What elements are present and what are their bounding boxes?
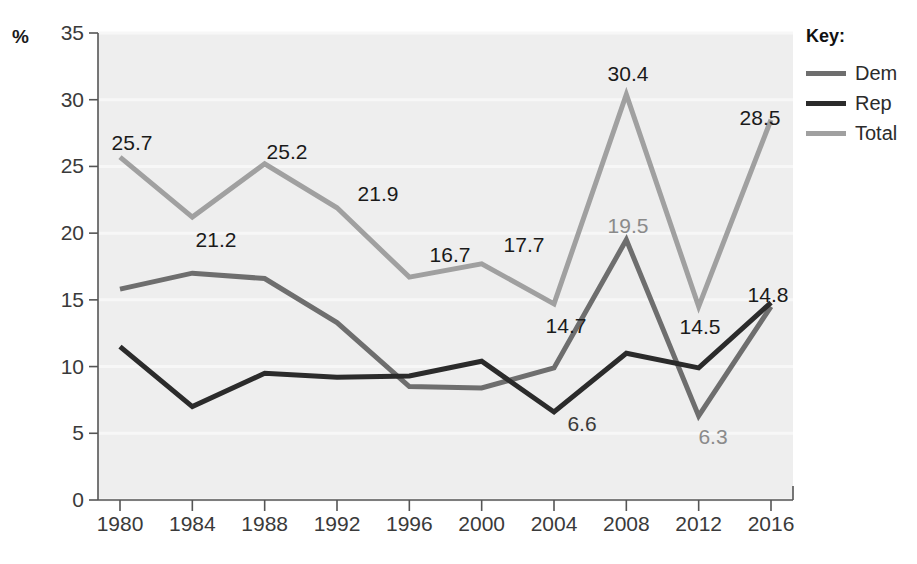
x-axis-tick-label: 1996 bbox=[386, 512, 433, 536]
legend-item-dem: Dem bbox=[806, 58, 914, 88]
legend-item-rep: Rep bbox=[806, 88, 914, 118]
data-point-label: 21.2 bbox=[196, 228, 237, 252]
data-point-label: 28.5 bbox=[740, 106, 781, 130]
plot-area bbox=[0, 0, 917, 564]
x-axis-tick-label: 1992 bbox=[314, 512, 361, 536]
legend-swatch-rep bbox=[806, 101, 846, 106]
legend-swatch-dem bbox=[806, 71, 846, 76]
y-axis-tick-label: 20 bbox=[40, 221, 84, 245]
x-axis-tick-label: 1980 bbox=[97, 512, 144, 536]
data-point-label: 25.7 bbox=[112, 131, 153, 155]
y-axis-unit-label: % bbox=[12, 26, 28, 48]
data-point-label: 17.7 bbox=[504, 233, 545, 257]
x-axis-tick-label: 1988 bbox=[241, 512, 288, 536]
legend-item-total: Total bbox=[806, 118, 914, 148]
data-point-label: 19.5 bbox=[608, 214, 649, 238]
legend: Key: DemRepTotal bbox=[806, 26, 914, 148]
y-axis-tick-label: 15 bbox=[40, 288, 84, 312]
y-axis-tick-label: 35 bbox=[40, 21, 84, 45]
x-axis-tick-label: 2000 bbox=[458, 512, 505, 536]
legend-label: Rep bbox=[855, 92, 892, 115]
data-point-label: 21.9 bbox=[358, 182, 399, 206]
data-point-label: 14.5 bbox=[680, 315, 721, 339]
legend-title: Key: bbox=[806, 26, 914, 47]
x-axis-tick-label: 2004 bbox=[531, 512, 578, 536]
y-axis-tick-label: 10 bbox=[40, 355, 84, 379]
data-point-label: 14.7 bbox=[546, 314, 587, 338]
legend-label: Total bbox=[855, 122, 897, 145]
x-axis-tick-label: 1984 bbox=[169, 512, 216, 536]
legend-swatch-total bbox=[806, 131, 846, 136]
data-point-label: 25.2 bbox=[267, 140, 308, 164]
data-point-label: 14.8 bbox=[748, 283, 789, 307]
y-axis-tick-label: 0 bbox=[40, 488, 84, 512]
data-point-label: 6.6 bbox=[567, 412, 596, 436]
data-point-label: 30.4 bbox=[608, 62, 649, 86]
x-axis-tick-label: 2016 bbox=[748, 512, 795, 536]
x-axis-tick-label: 2012 bbox=[675, 512, 722, 536]
data-point-label: 6.3 bbox=[698, 425, 727, 449]
y-axis-tick-label: 25 bbox=[40, 154, 84, 178]
legend-label: Dem bbox=[855, 62, 897, 85]
data-point-label: 16.7 bbox=[430, 243, 471, 267]
y-axis-tick-label: 5 bbox=[40, 421, 84, 445]
line-chart: % 05101520253035 19801984198819921996200… bbox=[0, 0, 917, 564]
x-axis-tick-label: 2008 bbox=[603, 512, 650, 536]
y-axis-tick-label: 30 bbox=[40, 88, 84, 112]
legend-items: DemRepTotal bbox=[806, 58, 914, 148]
